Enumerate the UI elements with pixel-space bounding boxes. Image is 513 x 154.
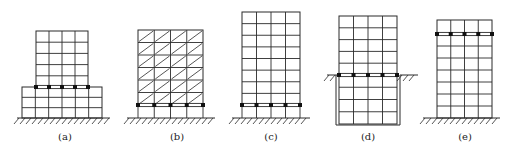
- ground-hatch-stroke: [301, 118, 306, 124]
- ground-hatch-stroke: [438, 118, 443, 124]
- brace-line: [139, 31, 153, 42]
- ground-hatch-stroke: [160, 118, 165, 124]
- brace-line: [188, 44, 202, 55]
- bearing-icon: [298, 103, 302, 107]
- top-story-frame: [437, 20, 492, 34]
- ground-hatch-stroke: [142, 118, 147, 124]
- ground-hatch-stroke: [271, 118, 276, 124]
- bearing-icon: [352, 73, 356, 77]
- ground-hatch-stroke: [480, 118, 485, 124]
- isolation-bearing-layer: [337, 73, 399, 77]
- panel-label-b: (b): [170, 131, 184, 142]
- brace-line: [188, 94, 202, 105]
- ground-hatch-stroke: [154, 118, 159, 124]
- ground-hatch-stroke: [14, 118, 19, 124]
- bearing-icon: [240, 103, 244, 107]
- isolation-bearing-layer: [435, 32, 494, 36]
- ground-hatch-stroke: [208, 118, 213, 124]
- ground-hatch-stroke: [403, 75, 408, 81]
- ground-hatch-stroke: [295, 118, 300, 124]
- ground-hatch-stroke: [444, 118, 449, 124]
- brace-line: [155, 31, 169, 42]
- ground-hatch: [124, 118, 215, 124]
- ground-hatch-stroke: [98, 118, 103, 124]
- ground-hatch-stroke: [184, 118, 189, 124]
- ground-hatch-stroke: [148, 118, 153, 124]
- ground-hatch-stroke: [420, 118, 425, 124]
- ground-hatch-stroke: [196, 118, 201, 124]
- ground-hatch-stroke: [492, 118, 497, 124]
- ground-hatch-stroke: [468, 118, 473, 124]
- bearing-icon: [201, 103, 205, 107]
- ground-hatch-stroke: [450, 118, 455, 124]
- ground-hatch-stroke: [241, 118, 246, 124]
- ground-hatch-stroke: [104, 118, 109, 124]
- brace-line: [172, 56, 186, 67]
- ground-hatch-stroke: [68, 118, 73, 124]
- ground-hatch-stroke: [178, 118, 183, 124]
- ground-hatch-stroke: [56, 118, 61, 124]
- bearing-icon: [269, 103, 273, 107]
- bearing-icon: [435, 32, 439, 36]
- ground-hatch-stroke: [283, 118, 288, 124]
- panel-label-a: (a): [58, 131, 72, 142]
- brace-line: [188, 31, 202, 42]
- brace-line: [188, 69, 202, 80]
- lower-frame: [437, 34, 492, 118]
- isolation-schemes-figure: (a) (b) (c) (d) (e): [0, 0, 513, 154]
- bearing-icon: [86, 85, 90, 89]
- superstructure-frame: [138, 30, 203, 105]
- brace-line: [155, 94, 169, 105]
- ground-hatch-stroke: [277, 118, 282, 124]
- bearing-icon: [255, 103, 259, 107]
- panel-b-hatched-base-isolation: [124, 30, 215, 124]
- brace-line: [139, 94, 153, 105]
- bearing-icon: [152, 103, 156, 107]
- ground-hatch-stroke: [259, 118, 264, 124]
- brace-line: [155, 56, 169, 67]
- bearing-icon: [34, 85, 38, 89]
- ground-hatch-stroke: [136, 118, 141, 124]
- panel-c-base-isolation: [229, 12, 310, 124]
- bearing-icon: [490, 32, 494, 36]
- bearing-icon: [463, 32, 467, 36]
- ground-hatch-stroke: [409, 75, 414, 81]
- ground-hatch-stroke: [62, 118, 67, 124]
- panel-label-e: (e): [458, 131, 472, 142]
- bearing-icon: [381, 73, 385, 77]
- brace-line: [139, 56, 153, 67]
- ground-hatch-left: [324, 75, 337, 81]
- ground-hatch-stroke: [265, 118, 270, 124]
- bearing-icon: [185, 103, 189, 107]
- ground-hatch-stroke: [26, 118, 31, 124]
- ground-hatch: [14, 118, 110, 124]
- bearing-icon: [476, 32, 480, 36]
- ground-hatch-stroke: [330, 75, 335, 81]
- ground-hatch: [229, 118, 310, 124]
- brace-line: [172, 44, 186, 55]
- ground-hatch-stroke: [166, 118, 171, 124]
- ground-hatch-stroke: [190, 118, 195, 124]
- ground-hatch-stroke: [80, 118, 85, 124]
- bearing-icon: [73, 85, 77, 89]
- brace-line: [172, 69, 186, 80]
- ground-hatch-stroke: [432, 118, 437, 124]
- ground-hatch-stroke: [20, 118, 25, 124]
- ground-hatch-stroke: [229, 118, 234, 124]
- bearing-icon: [136, 103, 140, 107]
- ground-hatch-stroke: [50, 118, 55, 124]
- ground-hatch-stroke: [253, 118, 258, 124]
- ground-hatch-stroke: [486, 118, 491, 124]
- ground-hatch-stroke: [324, 75, 329, 81]
- ground-hatch-stroke: [74, 118, 79, 124]
- bearing-icon: [337, 73, 341, 77]
- ground-hatch-stroke: [172, 118, 177, 124]
- bearing-icon: [169, 103, 173, 107]
- podium-frame: [22, 87, 102, 118]
- ground-hatch-stroke: [86, 118, 91, 124]
- brace-line: [139, 69, 153, 80]
- basement-frame: [339, 75, 397, 124]
- ground-hatch-stroke: [38, 118, 43, 124]
- ground-hatch-stroke: [235, 118, 240, 124]
- brace-line: [139, 81, 153, 92]
